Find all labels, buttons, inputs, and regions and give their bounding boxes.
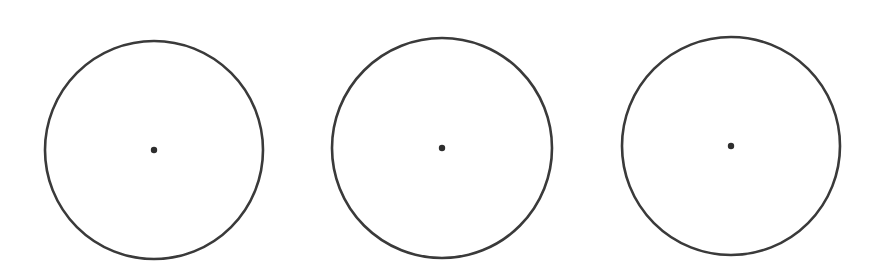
circles-diagram <box>0 0 895 279</box>
center-dot <box>728 143 734 149</box>
center-dot <box>439 145 445 151</box>
center-dot <box>151 147 157 153</box>
